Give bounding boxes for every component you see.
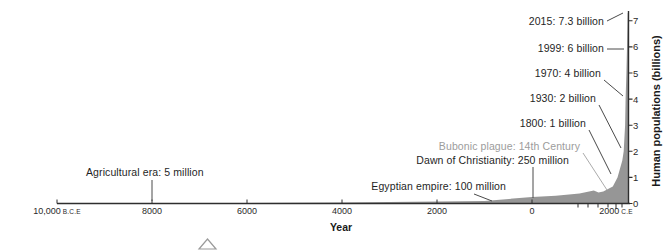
y-tick-label: 0: [633, 198, 647, 209]
leader-line: [604, 80, 623, 96]
x-tick-label: 8000: [107, 206, 197, 216]
leader-line: [599, 105, 621, 148]
annotation-label: 1800: 1 billion: [520, 118, 586, 129]
annotation-label: 2015: 7.3 billion: [529, 16, 604, 27]
x-tick-label: 6000: [202, 206, 292, 216]
leader-line: [474, 194, 492, 201]
y-axis-title: Human populations (billions): [650, 1, 664, 221]
leader-line: [607, 13, 623, 21]
y-tick-label: 1: [633, 172, 647, 183]
x-tick-label: 2000: [392, 206, 482, 216]
x-tick-label: 10,000 B.C.E: [12, 206, 102, 217]
x-axis-title: Year: [301, 221, 381, 233]
y-tick-label: 4: [633, 94, 647, 105]
annotation-label: Agricultural era: 5 million: [86, 167, 204, 178]
y-tick-label: 7: [633, 15, 647, 26]
annotation-label: 1970: 4 billion: [535, 68, 601, 79]
annotation-label: Dawn of Christianity: 250 million: [416, 155, 569, 166]
y-tick-label: 5: [633, 68, 647, 79]
population-growth-figure: 2015: 7.3 billion1999: 6 billion1970: 4 …: [0, 0, 666, 251]
x-tick-label: 4000: [297, 206, 387, 216]
annotation-label: 1930: 2 billion: [530, 93, 596, 104]
y-tick-label: 3: [633, 120, 647, 131]
x-tick-label: 2000 C.E: [571, 206, 661, 217]
annotation-label: 1999: 6 billion: [538, 43, 604, 54]
annotation-label: Egyptian empire: 100 million: [371, 181, 506, 192]
x-tick-label: 0: [487, 206, 577, 216]
carousel-up-triangle-icon[interactable]: [199, 239, 216, 249]
annotation-label: Bubonic plague: 14th Century: [439, 141, 580, 152]
figure-caption-fragment: FIGURE: [2, 241, 122, 247]
y-tick-label: 2: [633, 146, 647, 157]
y-tick-label: 6: [633, 41, 647, 52]
